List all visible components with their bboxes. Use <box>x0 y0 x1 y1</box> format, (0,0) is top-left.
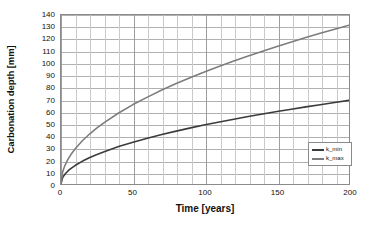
y-tick-label: 0 <box>51 181 55 190</box>
y-tick-label: 40 <box>46 132 55 141</box>
y-tick-label: 120 <box>42 34 55 43</box>
x-axis-title: Time [years] <box>60 203 350 214</box>
carbonation-depth-chart: Carbonation depth [mm] 01020304050607080… <box>0 0 376 239</box>
x-tick-label: 50 <box>128 188 137 197</box>
y-tick-label: 20 <box>46 156 55 165</box>
y-tick-label: 60 <box>46 107 55 116</box>
y-tick-label: 130 <box>42 22 55 31</box>
x-tick-label: 0 <box>58 188 62 197</box>
y-tick-label: 100 <box>42 58 55 67</box>
legend-label-k_max: k_max <box>326 154 344 163</box>
chart-legend: k_mink_max <box>308 142 352 166</box>
y-tick-label: 110 <box>42 46 55 55</box>
legend-swatch-k_min <box>312 149 324 151</box>
series-lines <box>61 15 349 184</box>
x-tick-label: 100 <box>198 188 211 197</box>
y-axis-title-text: Carbonation depth [mm] <box>5 45 16 153</box>
y-tick-label: 140 <box>42 10 55 19</box>
y-axis-title: Carbonation depth [mm] <box>2 14 18 184</box>
legend-item-k_max: k_max <box>312 154 348 163</box>
legend-label-k_min: k_min <box>326 145 342 154</box>
x-axis-tick-labels: 050100150200 <box>60 188 350 200</box>
y-tick-label: 50 <box>46 119 55 128</box>
legend-swatch-k_max <box>312 158 324 160</box>
y-tick-label: 90 <box>46 71 55 80</box>
x-tick-label: 150 <box>271 188 284 197</box>
series-line-k_max <box>61 25 349 184</box>
y-tick-label: 10 <box>46 168 55 177</box>
series-line-k_min <box>61 100 349 184</box>
plot-area <box>60 14 350 185</box>
y-tick-label: 30 <box>46 144 55 153</box>
y-tick-label: 80 <box>46 83 55 92</box>
x-tick-label: 200 <box>343 188 356 197</box>
y-tick-label: 70 <box>46 95 55 104</box>
y-axis-tick-labels: 0102030405060708090100110120130140 <box>20 14 57 185</box>
legend-item-k_min: k_min <box>312 145 348 154</box>
